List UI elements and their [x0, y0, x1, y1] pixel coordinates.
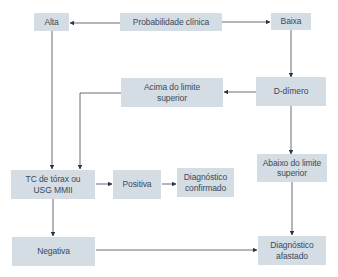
node-label: D-dímero [274, 86, 309, 96]
edge-acima-tc [80, 93, 121, 169]
node-d-dimero: D-dímero [256, 77, 326, 106]
node-abaixo-limite-superior: Abaixo do limite superior [257, 154, 327, 182]
node-label: Negativa [37, 246, 70, 256]
node-positiva: Positiva [113, 170, 161, 199]
node-negativa: Negativa [12, 237, 95, 266]
node-label: Abaixo do limite superior [261, 158, 323, 178]
node-tc-usg: TC de tórax ou USG MMII [11, 170, 95, 199]
node-baixa: Baixa [271, 13, 311, 30]
node-label: Baixa [281, 16, 302, 26]
node-alta: Alta [34, 13, 69, 31]
node-label: Alta [44, 17, 58, 27]
node-label: Positiva [123, 179, 152, 189]
node-acima-limite-superior: Acima do limite superior [121, 78, 223, 107]
node-label: Diagnóstico afastado [267, 240, 317, 260]
node-label: Acima do limite superior [137, 82, 207, 102]
node-diagnostico-afastado: Diagnóstico afastado [258, 236, 326, 265]
node-label: Diagnóstico confirmado [181, 172, 231, 192]
node-probabilidade-clinica: Probabilidade clínica [120, 13, 222, 31]
node-diagnostico-confirmado: Diagnóstico confirmado [177, 168, 234, 197]
node-label: Probabilidade clínica [133, 17, 209, 27]
node-label: TC de tórax ou USG MMII [23, 174, 83, 194]
